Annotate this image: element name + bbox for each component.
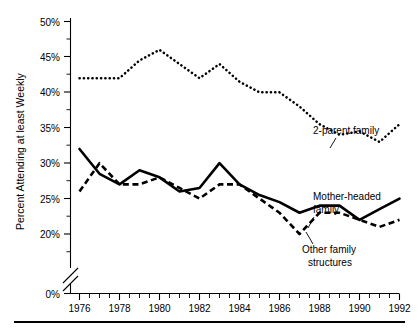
x-tick-label-1976: 1976 — [68, 303, 91, 314]
y-tick-label-30: 30% — [40, 158, 60, 169]
y-tick-label-25: 25% — [40, 194, 60, 205]
annotation-label-mother-headed-line2: family — [313, 204, 339, 215]
x-tick-label-1984: 1984 — [228, 303, 251, 314]
annotation-2-parent-family: 2-parent family — [313, 125, 379, 148]
x-axis: 1976 1978 1980 1982 1984 1986 1988 1990 … — [68, 294, 411, 315]
y-tick-label-45: 45% — [40, 52, 60, 63]
x-tick-label-1986: 1986 — [268, 303, 291, 314]
x-tick-label-1978: 1978 — [108, 303, 131, 314]
leader-line-other-family-structures — [306, 232, 313, 244]
x-tick-label-1990: 1990 — [348, 303, 371, 314]
y-tick-label-35: 35% — [40, 123, 60, 134]
x-tick-label-1980: 1980 — [148, 303, 171, 314]
x-tick-label-1982: 1982 — [188, 303, 211, 314]
y-tick-label-50: 50% — [40, 17, 60, 28]
annotation-label-2-parent-family: 2-parent family — [313, 125, 379, 136]
chart-figure: 50% 45% 40% 35% 30% 25% 20% 0% Percent A… — [0, 0, 419, 335]
leader-line-mother-headed-family — [308, 217, 314, 228]
x-tick-label-1992: 1992 — [388, 303, 411, 314]
annotation-label-other-family-line1: Other family — [302, 244, 356, 255]
footer-rule — [14, 321, 405, 323]
y-tick-label-0: 0% — [46, 289, 61, 300]
annotation-other-family-structures: Other family structures — [302, 232, 356, 268]
line-chart: 50% 45% 40% 35% 30% 25% 20% 0% Percent A… — [0, 0, 419, 335]
series-group — [80, 50, 400, 234]
y-tick-label-40: 40% — [40, 87, 60, 98]
y-axis-title: Percent Attending at least Weekly — [14, 72, 26, 230]
annotation-label-mother-headed-line1: Mother-headed — [313, 191, 381, 202]
y-tick-label-20: 20% — [40, 229, 60, 240]
annotation-label-other-family-line2: structures — [308, 257, 352, 268]
x-tick-label-1988: 1988 — [308, 303, 331, 314]
y-axis: 50% 45% 40% 35% 30% 25% 20% 0% Percent A… — [14, 17, 78, 300]
leader-line-2-parent-family — [330, 138, 336, 148]
